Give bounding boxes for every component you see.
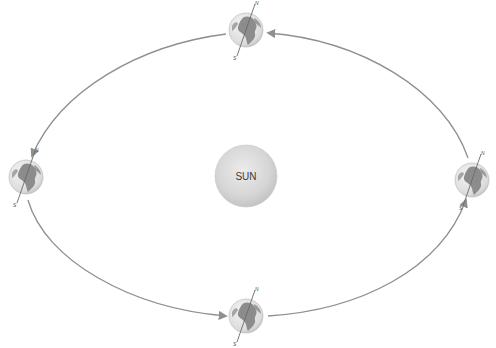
south-label: S <box>233 341 237 347</box>
earth-bottom: N S <box>229 286 263 347</box>
orbit-arc-left-bottom <box>28 200 226 316</box>
north-label: N <box>481 150 485 156</box>
south-label: S <box>233 55 237 61</box>
sun: SUN <box>215 145 277 207</box>
orbit-arc-right-top <box>268 33 468 158</box>
earth-orbit-diagram: SUN N S N S N S N S <box>0 0 496 348</box>
earth-left: N S <box>9 147 43 208</box>
north-label: N <box>35 147 39 153</box>
orbit-arc-bottom-right <box>268 200 466 316</box>
sun-label: SUN <box>235 171 256 182</box>
north-label: N <box>255 286 259 292</box>
south-label: S <box>13 202 17 208</box>
earth-top: N S <box>229 0 263 61</box>
earth-right: N S <box>455 150 489 211</box>
orbit-arc-top-left <box>32 34 226 156</box>
north-label: N <box>255 0 259 6</box>
